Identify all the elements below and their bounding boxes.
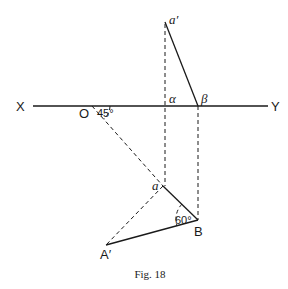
label-O: O: [79, 106, 89, 121]
label-angle-60: 60°: [175, 214, 192, 226]
line-a-A-prime: [106, 186, 163, 245]
label-a: a: [152, 178, 159, 193]
label-beta: β: [200, 91, 208, 106]
figure-caption: Fig. 18: [134, 268, 166, 280]
label-Y: Y: [271, 99, 280, 114]
label-angle-45: 45°: [97, 107, 114, 119]
label-a-prime: a′: [169, 12, 179, 27]
label-B: B: [194, 224, 203, 239]
label-alpha: α: [169, 91, 177, 106]
diagram-canvas: X Y O 45° a′ α β a 60° B A′ Fig. 18: [0, 0, 288, 289]
label-X: X: [16, 99, 25, 114]
label-A-prime: A′: [100, 247, 112, 262]
